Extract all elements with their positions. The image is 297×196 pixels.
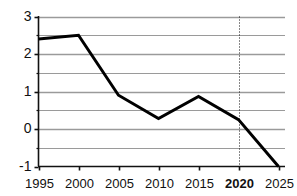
x-tick-label-2010: 2010 <box>145 176 174 191</box>
y-tick-label: 0 <box>24 120 32 136</box>
line-chart: 3210-1 1995200020052010201520202025 <box>0 0 297 196</box>
x-tick-label-2015: 2015 <box>185 176 214 191</box>
x-tick-label-1995: 1995 <box>25 176 54 191</box>
y-tick-label: 2 <box>24 45 32 61</box>
x-tick-label-2000: 2000 <box>65 176 94 191</box>
x-tick-label-group: 1995200020052010201520202025 <box>25 176 294 191</box>
x-tick-label-2025: 2025 <box>265 176 294 191</box>
y-tick-label: 3 <box>24 8 32 24</box>
x-tick-label-2005: 2005 <box>105 176 134 191</box>
y-tick-label: 1 <box>24 83 32 99</box>
y-tick-label: -1 <box>19 158 32 174</box>
chart-canvas: 3210-1 1995200020052010201520202025 <box>0 0 297 196</box>
x-tick-label-2020: 2020 <box>225 176 254 191</box>
